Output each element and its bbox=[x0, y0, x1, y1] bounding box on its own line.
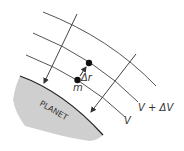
field-arrow-right bbox=[91, 54, 136, 112]
equipotential-label-lower: V bbox=[124, 115, 132, 126]
equipotential-label-upper: V + ΔV bbox=[138, 102, 174, 113]
field-arrow-left bbox=[44, 14, 77, 83]
equipotential-diagram: Δr m V + ΔV V PLANET bbox=[0, 0, 184, 151]
displaced-mass-dot bbox=[86, 60, 92, 66]
mass-label: m bbox=[73, 82, 83, 93]
